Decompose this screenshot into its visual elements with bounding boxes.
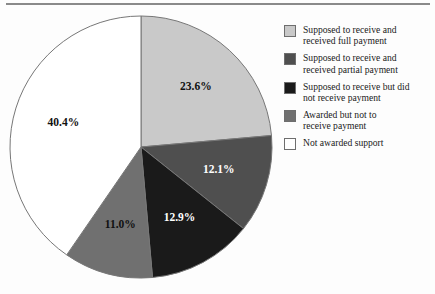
chart-legend: Supposed to receive and received full pa… xyxy=(284,24,432,156)
slice-label-partial-payment: 12.1% xyxy=(203,163,235,175)
legend-swatch-awarded-not-to-receive xyxy=(284,110,296,122)
slice-label-awarded-not-to-receive: 11.0% xyxy=(105,218,136,230)
legend-label-no-payment: Supposed to receive but did not receive … xyxy=(303,81,410,104)
slice-label-not-awarded: 40.4% xyxy=(48,116,80,128)
legend-swatch-full-payment xyxy=(284,25,296,37)
pie-chart-figure: 23.6% 12.1% 12.9% 11.0% 40.4% Supposed t… xyxy=(0,0,435,294)
legend-item-awarded-not-to-receive: Awarded but not to receive payment xyxy=(284,109,432,132)
slice-label-full-payment: 23.6% xyxy=(180,80,212,92)
legend-swatch-not-awarded xyxy=(284,138,296,150)
legend-swatch-partial-payment xyxy=(284,53,296,65)
legend-item-not-awarded: Not awarded support xyxy=(284,137,432,150)
pie-chart-plot-area: 23.6% 12.1% 12.9% 11.0% 40.4% xyxy=(5,8,280,286)
slice-label-no-payment: 12.9% xyxy=(164,211,196,223)
legend-label-awarded-not-to-receive: Awarded but not to receive payment xyxy=(303,109,376,132)
legend-item-partial-payment: Supposed to receive and received partial… xyxy=(284,52,432,75)
top-divider-rule xyxy=(6,3,430,5)
legend-item-no-payment: Supposed to receive but did not receive … xyxy=(284,81,432,104)
pie-slice-group xyxy=(10,16,272,278)
legend-label-full-payment: Supposed to receive and received full pa… xyxy=(303,24,397,47)
legend-swatch-no-payment xyxy=(284,82,296,94)
legend-label-partial-payment: Supposed to receive and received partial… xyxy=(303,52,398,75)
pie-chart-svg: 23.6% 12.1% 12.9% 11.0% 40.4% xyxy=(5,8,280,286)
legend-item-full-payment: Supposed to receive and received full pa… xyxy=(284,24,432,47)
legend-label-not-awarded: Not awarded support xyxy=(303,137,383,148)
